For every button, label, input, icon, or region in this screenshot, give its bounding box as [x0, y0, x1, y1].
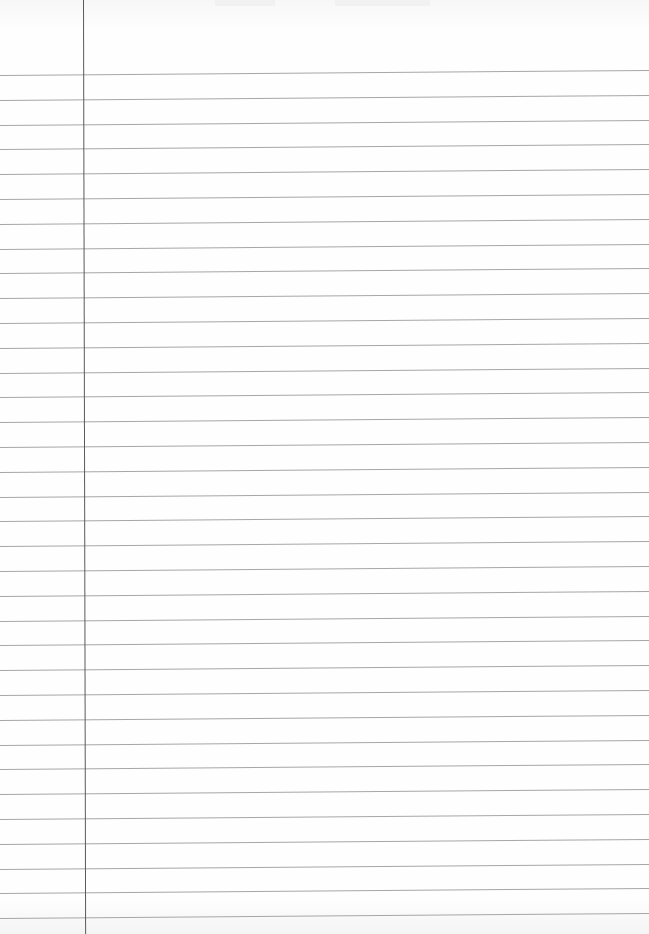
ruled-line: [0, 665, 649, 671]
ruled-line: [0, 70, 649, 76]
ruled-line: [0, 343, 649, 349]
bleed-through-mark: [335, 0, 430, 6]
ruled-line: [0, 715, 649, 721]
ruled-line: [0, 690, 649, 696]
ruled-line: [0, 888, 649, 894]
ruled-line: [0, 839, 649, 845]
ruled-line: [0, 417, 649, 423]
ruled-line: [0, 293, 649, 299]
ruled-line: [0, 740, 649, 746]
ruled-line: [0, 516, 649, 522]
ruled-line: [0, 95, 649, 101]
ruled-line: [0, 467, 649, 473]
ruled-line: [0, 864, 649, 870]
ruled-line: [0, 566, 649, 572]
ruled-line: [0, 640, 649, 646]
ruled-line: [0, 219, 649, 225]
ruled-line: [0, 268, 649, 274]
ruled-line: [0, 814, 649, 820]
ruled-line: [0, 442, 649, 448]
ruled-line: [0, 169, 649, 175]
ruled-line: [0, 144, 649, 150]
ruled-line: [0, 591, 649, 597]
ruled-line: [0, 492, 649, 498]
ruled-line: [0, 913, 649, 919]
ruled-line: [0, 764, 649, 770]
lined-paper-sheet: [0, 0, 649, 934]
ruled-line: [0, 616, 649, 622]
ruled-line: [0, 368, 649, 374]
ruled-line: [0, 789, 649, 795]
ruled-line: [0, 392, 649, 398]
bleed-through-mark: [215, 0, 275, 6]
ruled-line: [0, 120, 649, 126]
ruled-line: [0, 194, 649, 200]
ruled-line: [0, 318, 649, 324]
ruled-line: [0, 244, 649, 250]
ruled-line: [0, 541, 649, 547]
